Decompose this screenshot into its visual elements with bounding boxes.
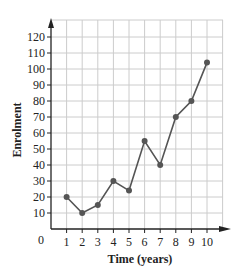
data-point xyxy=(64,194,70,200)
data-point xyxy=(110,178,116,184)
data-point xyxy=(204,60,210,66)
data-point xyxy=(95,202,101,208)
data-point xyxy=(79,210,85,216)
x-tick-label: 7 xyxy=(157,235,163,249)
x-axis-label: Time (years) xyxy=(108,252,173,266)
data-point xyxy=(157,162,163,168)
y-tick-label: 90 xyxy=(33,78,45,92)
y-tick-label: 10 xyxy=(33,206,45,220)
data-point xyxy=(173,114,179,120)
y-tick-label: 110 xyxy=(27,46,45,60)
y-axis-label: Enrolment xyxy=(10,102,24,157)
x-tick-label: 5 xyxy=(126,235,132,249)
x-tick-label: 3 xyxy=(95,235,101,249)
x-tick-label: 1 xyxy=(64,235,70,249)
y-tick-label: 40 xyxy=(33,158,45,172)
x-tick-label: 8 xyxy=(173,235,179,249)
y-tick-label: 50 xyxy=(33,142,45,156)
x-tick-label: 2 xyxy=(79,235,85,249)
y-tick-label: 20 xyxy=(33,190,45,204)
y-tick-label: 60 xyxy=(33,126,45,140)
data-point xyxy=(142,138,148,144)
x-tick-label: 10 xyxy=(201,235,213,249)
y-tick-label: 80 xyxy=(33,94,45,108)
line-chart: 10203040506070809010011012012345678910 T… xyxy=(0,0,237,276)
tick-labels: 10203040506070809010011012012345678910 xyxy=(27,30,213,249)
y-tick-label: 120 xyxy=(27,30,45,44)
axes xyxy=(47,18,231,233)
data-series xyxy=(64,60,210,216)
data-point xyxy=(126,188,132,194)
data-point xyxy=(188,98,194,104)
y-tick-label: 100 xyxy=(27,62,45,76)
x-tick-label: 4 xyxy=(110,235,116,249)
y-tick-label: 30 xyxy=(33,174,45,188)
grid-lines xyxy=(51,20,223,229)
x-tick-label: 9 xyxy=(188,235,194,249)
x-axis-arrow-icon xyxy=(219,226,231,232)
origin-label: 0 xyxy=(38,233,44,247)
x-tick-label: 6 xyxy=(142,235,148,249)
y-tick-label: 70 xyxy=(33,110,45,124)
